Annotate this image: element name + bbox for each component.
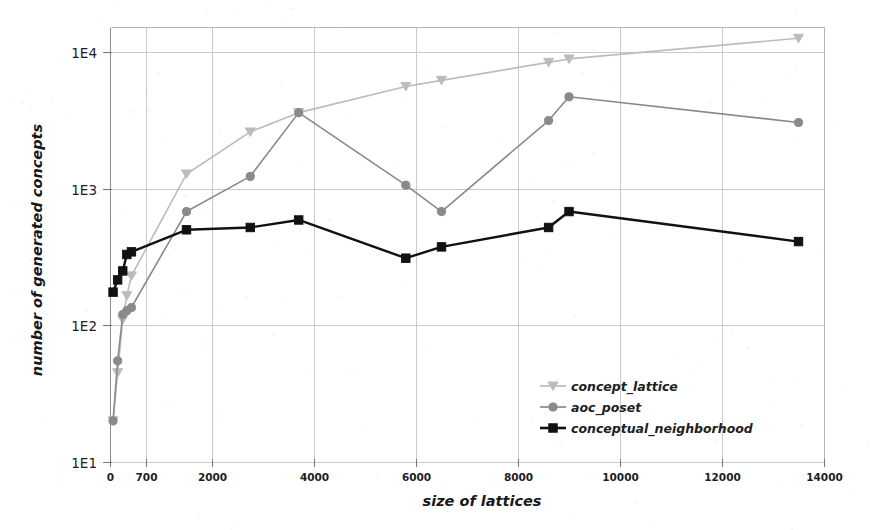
chart-figure: 1E11E21E31E40700200040006000800010000120… (0, 0, 879, 530)
series-line (113, 97, 798, 421)
noise-speck (167, 400, 170, 401)
legend-item-concept_lattice[interactable]: concept_lattice (540, 379, 678, 395)
noise-speck (269, 123, 270, 126)
noise-speck (558, 444, 561, 446)
noise-speck (194, 461, 195, 463)
noise-speck (733, 84, 735, 85)
noise-speck (402, 102, 403, 104)
noise-speck (85, 309, 88, 311)
x-tick-label: 2000 (198, 471, 227, 483)
legend-label: conceptual_neighborhood (571, 421, 754, 437)
noise-speck (282, 22, 283, 24)
data-point-marker (295, 109, 303, 117)
noise-speck (800, 425, 803, 427)
noise-speck (341, 28, 342, 29)
noise-speck (57, 479, 59, 481)
noise-speck (522, 257, 523, 259)
noise-speck (636, 502, 638, 504)
noise-speck (692, 369, 695, 371)
noise-speck (291, 8, 294, 10)
noise-speck (235, 10, 237, 12)
noise-speck (751, 55, 752, 57)
plot-frame (111, 28, 825, 463)
noise-speck (731, 332, 734, 334)
data-point-marker (182, 170, 192, 179)
noise-speck (328, 219, 331, 221)
noise-speck (567, 162, 570, 164)
noise-speck (203, 343, 206, 344)
legend-label: concept_lattice (571, 379, 678, 395)
legend-item-conceptual_neighborhood[interactable]: conceptual_neighborhood (540, 421, 754, 437)
noise-speck (789, 74, 791, 75)
axis-titles: size of latticesnumber of generated conc… (29, 124, 542, 509)
data-point-marker (437, 207, 445, 215)
noise-speck (118, 40, 120, 41)
noise-speck (20, 101, 23, 104)
noise-speck (400, 281, 403, 282)
noise-speck (502, 136, 505, 138)
noise-speck (661, 248, 662, 249)
noise-speck (376, 473, 379, 475)
noise-speck (211, 440, 214, 441)
noise-speck (796, 137, 799, 138)
noise-speck (545, 249, 548, 251)
noise-speck (266, 257, 267, 258)
noise-speck (748, 113, 751, 114)
noise-speck (183, 292, 186, 293)
noise-speck (400, 482, 403, 484)
noise-speck (13, 96, 15, 97)
data-point-marker (246, 223, 254, 231)
noise-speck (424, 71, 426, 72)
noise-speck (230, 528, 232, 530)
chart-legend: concept_latticeaoc_posetconceptual_neigh… (540, 379, 754, 437)
noise-speck (166, 316, 168, 318)
data-point-marker (113, 276, 121, 284)
series-line (113, 212, 798, 293)
y-tick-label: 1E1 (71, 455, 97, 471)
data-point-marker (127, 303, 135, 311)
noise-speck (532, 418, 534, 420)
noise-speck (609, 84, 612, 85)
noise-speck (217, 415, 219, 417)
data-point-marker (549, 403, 557, 411)
noise-speck (205, 9, 207, 11)
data-point-marker (127, 248, 135, 256)
data-point-marker (794, 118, 802, 126)
data-point-marker (114, 357, 122, 365)
noise-speck (54, 231, 57, 232)
noise-speck (444, 125, 447, 127)
x-tick-label: 14000 (806, 471, 843, 483)
noise-speck (592, 152, 595, 154)
noise-speck (110, 221, 113, 223)
noise-speck (164, 136, 166, 138)
noise-speck (193, 209, 195, 211)
noise-speck (126, 211, 128, 212)
noise-speck (181, 383, 182, 384)
noise-speck (303, 370, 305, 372)
data-point-marker (109, 288, 117, 296)
noise-speck (337, 296, 339, 298)
noise-speck (207, 208, 209, 210)
noise-speck (650, 522, 652, 523)
noise-speck (309, 254, 311, 256)
series-aoc_poset (109, 93, 803, 425)
data-point-marker (402, 254, 410, 262)
noise-speck (299, 167, 301, 168)
noise-speck (700, 359, 702, 360)
x-tick-label: 0 (107, 471, 114, 483)
noise-speck (29, 91, 31, 93)
noise-speck (66, 114, 69, 115)
legend-item-aoc_poset[interactable]: aoc_poset (540, 400, 642, 416)
noise-speck (198, 514, 200, 516)
noise-speck (700, 228, 702, 229)
noise-speck (678, 358, 680, 359)
noise-speck (148, 109, 151, 111)
noise-speck (796, 10, 798, 12)
noise-speck (55, 181, 56, 184)
noise-speck (30, 359, 31, 361)
data-point-marker (182, 226, 190, 234)
noise-speck (715, 441, 718, 443)
noise-speck (795, 34, 798, 35)
noise-speck (573, 314, 576, 317)
data-point-marker (549, 424, 557, 432)
